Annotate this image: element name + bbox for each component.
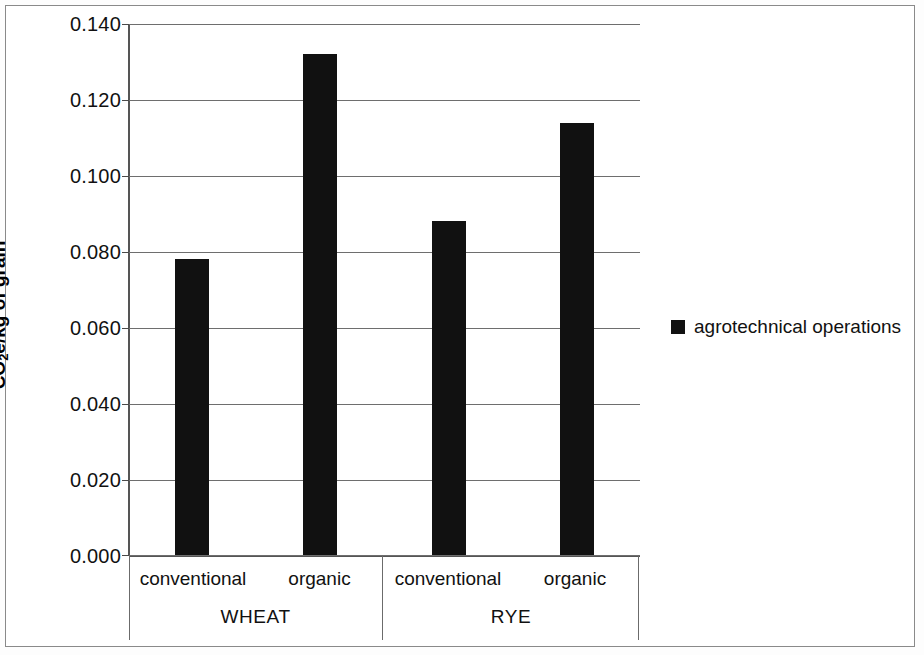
y-axis-title-post: e/kg of grain xyxy=(0,241,9,354)
plot-area xyxy=(129,24,640,555)
y-tick-label-0000: 0.000 xyxy=(47,546,121,566)
y-axis-title: CO2e/kg of grain xyxy=(0,205,10,425)
legend: agrotechnical operations xyxy=(671,316,901,338)
y-tick-label-0140: 0.140 xyxy=(47,14,121,34)
y-tick-label-0040: 0.040 xyxy=(47,394,121,414)
category-separator-right xyxy=(638,555,639,640)
category-label-rye-conventional: conventional xyxy=(384,561,512,597)
group-label-rye: RYE xyxy=(384,599,638,635)
y-axis-title-pre: CO xyxy=(0,361,9,390)
y-axis-tick-labels: 0.140 0.120 0.100 0.080 0.060 0.040 0.02… xyxy=(38,0,121,600)
bar-wheat-conventional xyxy=(175,259,209,555)
category-label-wheat-conventional: conventional xyxy=(129,561,257,597)
tick-0040 xyxy=(122,404,129,405)
y-tick-label-0100: 0.100 xyxy=(47,166,121,186)
bar-wheat-organic xyxy=(303,54,337,555)
tick-0000 xyxy=(122,555,129,556)
tick-0120 xyxy=(122,100,129,101)
legend-label-agrotechnical-operations: agrotechnical operations xyxy=(694,316,901,338)
category-separator-middle xyxy=(382,555,383,640)
y-tick-label-0020: 0.020 xyxy=(47,470,121,490)
y-tick-label-0120: 0.120 xyxy=(47,90,121,110)
tick-0020 xyxy=(122,480,129,481)
chart-figure: 0.140 0.120 0.100 0.080 0.060 0.040 0.02… xyxy=(0,0,924,655)
y-axis-title-subscript: 2 xyxy=(0,354,11,361)
gridline-0120 xyxy=(129,100,640,101)
tick-0140 xyxy=(122,24,129,25)
tick-0100 xyxy=(122,176,129,177)
tick-0060 xyxy=(122,328,129,329)
y-tick-label-0080: 0.080 xyxy=(47,242,121,262)
bar-rye-conventional xyxy=(432,221,466,555)
category-axis: conventional organic conventional organi… xyxy=(129,555,640,640)
gridline-0140 xyxy=(129,24,640,25)
legend-swatch-agrotechnical-operations xyxy=(671,320,685,334)
tick-0080 xyxy=(122,252,129,253)
group-label-wheat: WHEAT xyxy=(129,599,382,635)
category-label-rye-organic: organic xyxy=(512,561,638,597)
bar-rye-organic xyxy=(560,123,594,555)
y-tick-label-0060: 0.060 xyxy=(47,318,121,338)
category-label-wheat-organic: organic xyxy=(257,561,382,597)
